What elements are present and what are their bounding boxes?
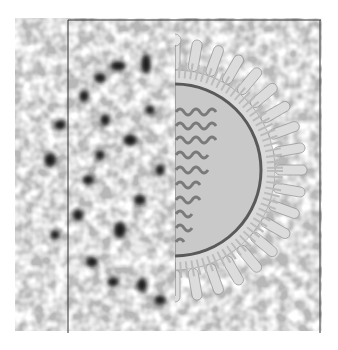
micrograph xyxy=(15,18,322,331)
virus-figure xyxy=(0,0,338,350)
